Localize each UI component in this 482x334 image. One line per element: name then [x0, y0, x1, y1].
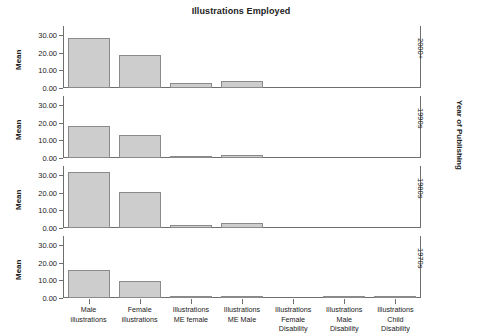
x-axis-tick	[344, 299, 345, 304]
y-axis-tick-label: 30.00	[38, 100, 57, 109]
bar	[68, 126, 110, 158]
y-axis-tick-label: 20.00	[38, 188, 57, 197]
bar	[221, 81, 263, 88]
y-axis-tick	[59, 280, 63, 281]
bar	[119, 135, 161, 158]
x-axis-tick	[89, 299, 90, 304]
y-axis-tick	[59, 298, 63, 299]
y-axis-tick	[59, 263, 63, 264]
y-axis-tick-label: 0.00	[42, 224, 57, 233]
y-axis-tick-label: 0.00	[42, 84, 57, 93]
x-axis-label-line: Male	[81, 305, 97, 314]
bar	[68, 172, 110, 228]
bar	[68, 270, 110, 298]
y-axis-tick	[59, 105, 63, 106]
y-axis-tick-label: 20.00	[38, 118, 57, 127]
panel-strip-label: 2000+	[416, 38, 425, 59]
y-axis-tick	[59, 228, 63, 229]
x-axis-tick-label: IllustrationsChildDisability	[366, 305, 425, 334]
bar	[323, 296, 365, 298]
bar	[221, 155, 263, 158]
x-axis-label-line: Female	[281, 315, 305, 324]
x-axis-tick	[191, 299, 192, 304]
y-axis-tick-label: 0.00	[42, 294, 57, 303]
y-axis-tick-label: 10.00	[38, 66, 57, 75]
x-axis-label-line: Disability	[279, 324, 308, 333]
x-axis-label-line: Illustrations	[326, 305, 362, 314]
y-axis-tick	[59, 210, 63, 211]
y-axis-title: Mean	[14, 50, 23, 70]
x-axis-label-line: Illustrations	[275, 305, 311, 314]
y-axis-tick-label: 30.00	[38, 240, 57, 249]
panel-strip-label: 1970s	[416, 248, 425, 268]
y-axis-tick	[59, 175, 63, 176]
bar	[170, 296, 212, 298]
y-axis-tick-label: 30.00	[38, 170, 57, 179]
x-axis-label-line: Disability	[330, 324, 359, 333]
x-axis-label-line: illustrations	[71, 315, 107, 324]
panel-strip-label: 1990s	[416, 108, 425, 128]
y-axis-tick	[59, 35, 63, 36]
panel-strip-label: 1980s	[416, 178, 425, 198]
x-axis-label-line: Female	[128, 305, 152, 314]
y-axis-tick-label: 30.00	[38, 30, 57, 39]
x-axis-label-line: Disability	[381, 324, 410, 333]
x-axis-tick	[293, 299, 294, 304]
bar	[170, 83, 212, 88]
bar	[170, 225, 212, 228]
x-axis-label-line: ME Male	[228, 315, 256, 324]
panel-frame	[63, 166, 421, 228]
x-axis-label-line: Child	[387, 315, 403, 324]
y-axis-tick	[59, 88, 63, 89]
y-axis-title: Mean	[14, 120, 23, 140]
x-axis-label-line: Illustrations	[173, 305, 209, 314]
y-axis-tick-label: 0.00	[42, 154, 57, 163]
y-axis-tick-label: 10.00	[38, 206, 57, 215]
bar	[68, 38, 110, 88]
y-axis-title: Mean	[14, 190, 23, 210]
x-axis-label-line: ME female	[174, 315, 208, 324]
x-axis-label-line: Illustrations	[377, 305, 413, 314]
y-axis-tick-label: 10.00	[38, 276, 57, 285]
bar	[119, 192, 161, 228]
y-axis-tick	[59, 193, 63, 194]
bar	[119, 55, 161, 88]
bar	[170, 156, 212, 158]
y-axis-tick	[59, 53, 63, 54]
bar	[119, 281, 161, 298]
y-axis-tick	[59, 123, 63, 124]
y-axis-tick-label: 10.00	[38, 136, 57, 145]
x-axis-label-line: Illustrations	[224, 305, 260, 314]
y-axis-tick	[59, 70, 63, 71]
y-axis-tick	[59, 158, 63, 159]
x-axis-tick	[395, 299, 396, 304]
y-axis-tick	[59, 140, 63, 141]
x-axis-label-line: Male	[336, 315, 352, 324]
y-axis-tick-label: 20.00	[38, 258, 57, 267]
y-axis-tick-label: 20.00	[38, 48, 57, 57]
panel-frame	[63, 96, 421, 158]
bar	[374, 296, 416, 298]
bar	[221, 296, 263, 298]
x-axis-tick	[242, 299, 243, 304]
panel-frame	[63, 26, 421, 88]
x-axis-tick	[140, 299, 141, 304]
panel-frame	[63, 236, 421, 298]
x-axis-label-line: illustrations	[122, 315, 158, 324]
chart-title: Illustrations Employed	[0, 6, 482, 16]
y-axis-tick	[59, 245, 63, 246]
y-axis-title: Mean	[14, 260, 23, 280]
panel-axis-title: Year of Publishing	[455, 100, 464, 170]
bar	[221, 223, 263, 228]
